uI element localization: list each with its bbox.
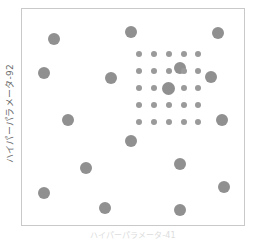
grid-point <box>151 68 157 74</box>
grid-point <box>136 51 142 57</box>
grid-point <box>195 68 201 74</box>
scatter-point <box>174 158 186 170</box>
grid-point <box>151 102 157 108</box>
scatter-point <box>62 114 74 126</box>
grid-point <box>136 119 142 125</box>
scatter-point <box>216 114 228 126</box>
y-axis-label: ハイパーパラメータ-92 <box>4 63 17 162</box>
grid-point <box>181 102 187 108</box>
grid-point <box>166 51 172 57</box>
scatter-point <box>174 204 186 216</box>
plot-frame <box>21 8 245 226</box>
x-axis-label-container: ハイパーパラメータ-41 <box>21 229 245 243</box>
grid-center-point <box>162 82 175 95</box>
grid-point <box>181 68 187 74</box>
scatter-point <box>38 67 50 79</box>
scatter-point <box>48 33 60 45</box>
grid-point <box>195 51 201 57</box>
grid-point <box>195 85 201 91</box>
grid-point <box>136 85 142 91</box>
y-axis-label-container: ハイパーパラメータ-92 <box>0 0 20 226</box>
grid-point <box>151 85 157 91</box>
grid-point <box>136 68 142 74</box>
grid-point <box>181 51 187 57</box>
grid-point <box>151 119 157 125</box>
grid-point <box>166 102 172 108</box>
grid-point <box>181 119 187 125</box>
scatter-point <box>38 187 50 199</box>
scatter-point <box>125 26 137 38</box>
x-axis-label: ハイパーパラメータ-41 <box>90 229 175 240</box>
grid-point <box>166 119 172 125</box>
scatter-point <box>212 27 224 39</box>
grid-point <box>151 51 157 57</box>
plot-area <box>22 9 244 225</box>
scatter-point <box>218 181 230 193</box>
scatter-point <box>105 72 117 84</box>
grid-point <box>195 119 201 125</box>
scatter-point <box>125 135 137 147</box>
scatter-point <box>80 162 92 174</box>
scatter-point <box>205 71 217 83</box>
grid-point <box>166 68 172 74</box>
grid-point <box>181 85 187 91</box>
figure: ハイパーパラメータ-92 ハイパーパラメータ-41 <box>0 0 258 244</box>
grid-point <box>195 102 201 108</box>
grid-point <box>136 102 142 108</box>
scatter-point <box>99 202 111 214</box>
